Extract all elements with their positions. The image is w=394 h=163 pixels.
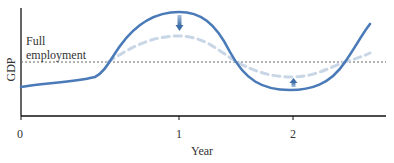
- full-employment-label-line1: Full: [26, 34, 45, 48]
- x-tick-label-1: 1: [176, 127, 182, 141]
- arrow-up-icon: [290, 78, 298, 87]
- full-employment-label-line2: employment: [26, 48, 86, 62]
- arrow-down-icon: [176, 15, 184, 31]
- x-axis-label: Year: [191, 144, 213, 158]
- x-tick-label-2: 2: [290, 127, 296, 141]
- y-axis-label: GDP: [4, 55, 19, 85]
- x-tick-label-0: 0: [17, 127, 23, 141]
- stabilized-gdp-curve: [108, 36, 370, 77]
- gdp-chart: [0, 0, 394, 163]
